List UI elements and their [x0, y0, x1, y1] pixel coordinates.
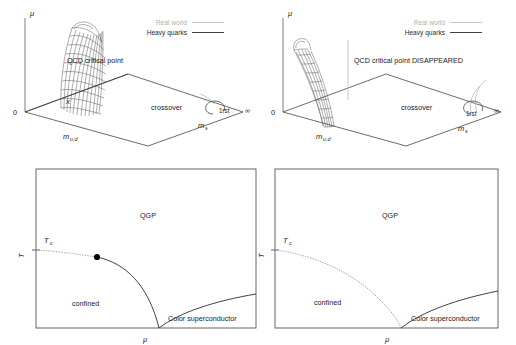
m-ud-axis-label: m	[63, 132, 69, 141]
qcd-phase-figure: μ 0	[0, 0, 516, 345]
qgp-region-label: QGP	[140, 211, 156, 220]
real-world-line	[200, 94, 214, 104]
origin-label: 0	[13, 108, 17, 117]
tc-label-subscript: c	[50, 240, 53, 246]
mu-axis-label: μ	[287, 9, 293, 18]
legend-label-real-world: Real world	[414, 19, 445, 26]
infinity-label: ∞	[245, 106, 250, 115]
critical-point-marker	[94, 254, 100, 260]
origin-label: 0	[271, 108, 275, 117]
m-s-axis-label: m	[458, 124, 464, 133]
legend-label-heavy-quarks: Heavy quarks	[147, 29, 188, 37]
first-order-label: 1rst	[466, 110, 477, 117]
T-axis-label: T	[17, 252, 26, 258]
color-superconductor-region-label: Color superconductor	[411, 314, 480, 323]
qgp-region-label: QGP	[382, 211, 398, 220]
real-world-line	[475, 80, 486, 113]
plot-frame	[36, 169, 256, 328]
confined-region-label: confined	[314, 298, 341, 307]
mu-axis-label: μ	[384, 335, 390, 344]
first-order-surface-mesh	[294, 39, 335, 127]
crossover-region-label: crossover	[151, 103, 183, 112]
critical-point-x-marker: x	[65, 97, 71, 106]
m-ud-axis-label: m	[316, 132, 322, 141]
infinity-label: ∞	[494, 106, 499, 115]
color-superconductor-region-label: Color superconductor	[168, 314, 237, 323]
legend-label-heavy-quarks: Heavy quarks	[405, 29, 446, 37]
m-ud-axis-subscript: u,d	[323, 136, 331, 142]
mu-axis-label: μ	[142, 335, 148, 344]
panel-bottom-left-phase-diagram: T T c QGP confined Color superconductor …	[0, 166, 258, 345]
legend-label-real-world: Real world	[156, 19, 187, 26]
crossover-region-label: crossover	[401, 103, 433, 112]
m-s-axis-label: m	[198, 121, 204, 130]
m-s-axis-subscript: s	[465, 128, 468, 134]
legend: Real world Heavy quarks	[405, 19, 482, 37]
confined-region-label: confined	[72, 299, 99, 308]
panel-top-left-3d: μ 0	[0, 0, 258, 168]
plot-frame	[275, 169, 498, 328]
qcd-critical-point-annotation: QCD critical point DISAPPEARED	[354, 56, 463, 65]
T-axis-label: T	[258, 252, 266, 258]
qcd-critical-point-annotation: QCD critical point	[67, 56, 123, 65]
first-order-solid-curve	[97, 257, 159, 328]
base-plane	[25, 74, 243, 146]
crossover-dotted-curve	[36, 250, 97, 257]
crossover-dotted-curve	[275, 250, 401, 328]
tc-label-subscript: c	[289, 240, 292, 246]
m-ud-axis-subscript: u,d	[70, 136, 78, 142]
legend: Real world Heavy quarks	[147, 19, 224, 37]
m-s-axis-subscript: s	[205, 125, 208, 131]
first-order-label: 1rst	[219, 107, 230, 114]
plane-edge-left	[25, 74, 128, 112]
panel-top-right-3d: μ 0	[258, 0, 516, 168]
mu-axis-label: μ	[29, 9, 35, 18]
panel-bottom-right-phase-diagram: T T c QGP confined Color superconductor …	[258, 166, 516, 345]
